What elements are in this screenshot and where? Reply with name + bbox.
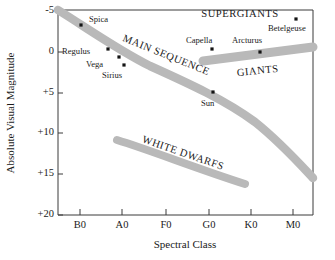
star-label-sirius: Sirius bbox=[102, 70, 123, 80]
star-dot-betelgeuse bbox=[294, 17, 297, 20]
y-tick-label: +20 bbox=[38, 208, 54, 219]
star-label-vega: Vega bbox=[86, 59, 103, 69]
y-tick-label: 0 bbox=[49, 45, 54, 56]
star-label-capella: Capella bbox=[186, 35, 212, 45]
region-label-giants: GIANTS bbox=[236, 63, 279, 78]
x-tick-label: G0 bbox=[203, 219, 216, 230]
star-label-spica: Spica bbox=[89, 14, 108, 24]
x-tick-label: F0 bbox=[160, 219, 171, 230]
hr-diagram-plot: -50+5+10+15+20 B0A0F0G0K0M0 MAIN SEQUENC… bbox=[0, 0, 335, 260]
star-dot-sirius bbox=[122, 63, 125, 66]
x-tick-label: M0 bbox=[286, 219, 301, 230]
y-tick-label: -5 bbox=[45, 4, 54, 15]
x-tick-label: A0 bbox=[116, 219, 129, 230]
x-axis-ticks: B0A0F0G0K0M0 bbox=[74, 209, 300, 230]
star-dot-sun bbox=[211, 90, 214, 93]
y-axis-ticks: -50+5+10+15+20 bbox=[38, 4, 63, 219]
y-axis-title: Absolute Visual Magnitude bbox=[4, 53, 16, 174]
x-tick-label: K0 bbox=[245, 219, 258, 230]
star-dot-spica bbox=[79, 23, 82, 26]
y-tick-label: +5 bbox=[43, 86, 54, 97]
y-tick-label: +15 bbox=[38, 167, 54, 178]
x-tick-label: B0 bbox=[74, 219, 86, 230]
star-label-regulus: Regulus bbox=[62, 46, 91, 56]
star-label-betelgeuse: Betelgeuse bbox=[268, 23, 306, 33]
y-tick-label: +10 bbox=[38, 126, 54, 137]
star-dot-arcturus bbox=[258, 50, 261, 53]
hr-diagram-figure: -50+5+10+15+20 B0A0F0G0K0M0 MAIN SEQUENC… bbox=[0, 0, 335, 260]
star-dot-vega bbox=[117, 55, 120, 58]
star-dot-regulus bbox=[106, 47, 109, 50]
x-axis-title: Spectral Class bbox=[154, 238, 217, 250]
star-dot-capella bbox=[210, 47, 213, 50]
star-label-sun: Sun bbox=[201, 98, 215, 108]
star-label-arcturus: Arcturus bbox=[232, 35, 263, 45]
band-giants bbox=[203, 47, 313, 61]
region-label-supergiants: SUPERGIANTS bbox=[201, 8, 278, 19]
